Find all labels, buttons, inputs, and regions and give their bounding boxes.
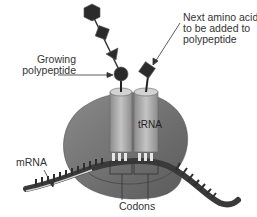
trna-label: tRNA [138, 119, 162, 130]
triangle-amino-acid [106, 48, 118, 60]
growing-polypeptide-label: Growing polypeptide [22, 54, 76, 76]
codons-label: Codons [119, 201, 155, 212]
hexagon-amino-acid [84, 4, 100, 21]
mrna-label: mRNA [16, 157, 47, 168]
trna-left [110, 88, 132, 152]
circle-amino-acid [114, 67, 128, 81]
next-amino-acid-label: Next amino acid to be added to polypepti… [183, 12, 257, 45]
square-amino-acid [95, 26, 109, 40]
growing-label-line2: polypeptide [22, 65, 76, 76]
next-label-line3: polypeptide [183, 34, 257, 45]
next-amino-acid [139, 62, 156, 92]
ribosome-diagram: Growing polypeptide Next amino acid to b… [0, 0, 257, 217]
polypeptide-chain [84, 4, 128, 92]
